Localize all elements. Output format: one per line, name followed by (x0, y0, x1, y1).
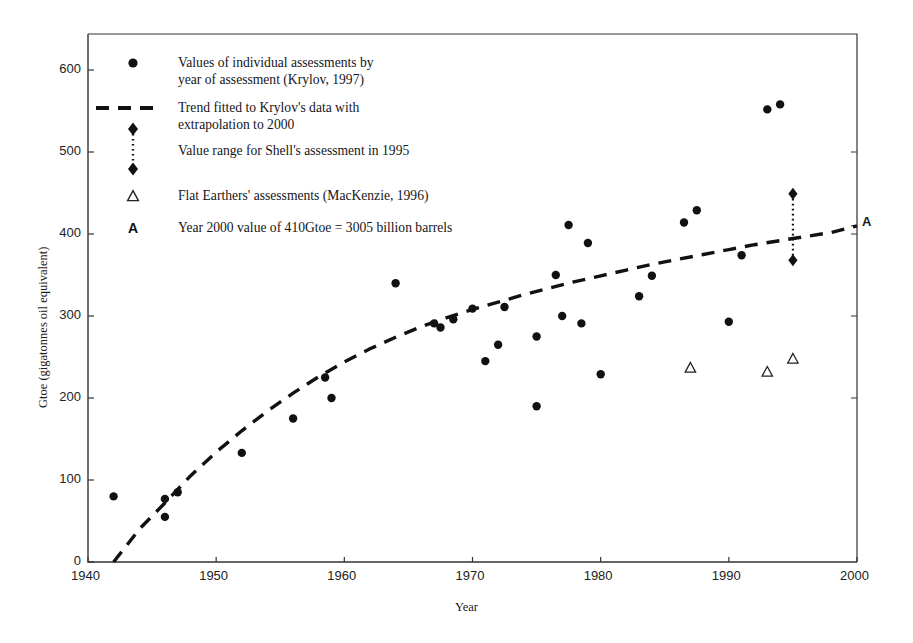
figure-root: A Year Gtoe (gigatonnes oil equivalent) … (0, 0, 913, 643)
data-point (532, 402, 540, 410)
legend-item-label: Year 2000 value of 410Gtoe = 3005 billio… (178, 219, 452, 236)
x-tick-label: 1950 (199, 568, 228, 583)
data-point (693, 206, 701, 214)
data-point (161, 513, 169, 521)
legend-letter-a-icon: A (128, 220, 138, 236)
x-tick-label: 1980 (584, 568, 613, 583)
data-point (737, 251, 745, 259)
data-point-triangle (788, 353, 798, 363)
data-point (481, 357, 489, 365)
data-point-triangle (762, 367, 772, 377)
shell-range-series (788, 188, 797, 266)
data-point (680, 218, 688, 226)
data-point (468, 304, 476, 312)
chart-canvas: A (0, 0, 913, 643)
data-point (635, 292, 643, 300)
x-tick-label: 1940 (71, 568, 100, 583)
data-point (597, 370, 605, 378)
legend-circle-icon (128, 58, 137, 67)
data-point (321, 373, 329, 381)
legend-item-4: Flat Earthers' assessments (MacKenzie, 1… (178, 187, 428, 204)
legend-item-3: Value range for Shell's assessment in 19… (178, 142, 409, 159)
y-tick-label: 300 (48, 307, 81, 322)
data-point (776, 100, 784, 108)
legend-item-label-line2: year of assessment (Krylov, 1997) (178, 71, 374, 88)
data-point (327, 394, 335, 402)
data-point (161, 495, 169, 503)
x-tick-label: 1970 (456, 568, 485, 583)
data-point (289, 414, 297, 422)
data-point (564, 221, 572, 229)
data-point (174, 488, 182, 496)
legend-triangle-icon (128, 191, 139, 201)
x-axis-title: Year (455, 600, 478, 615)
legend-item-label: Flat Earthers' assessments (MacKenzie, 1… (178, 187, 428, 204)
trend-line-series (114, 226, 857, 562)
data-point (648, 272, 656, 280)
data-point (500, 303, 508, 311)
x-tick-label: 1960 (327, 568, 356, 583)
y-axis-title: Gtoe (gigatonnes oil equivalent) (36, 247, 51, 408)
year-2000-value-marker: A (862, 214, 871, 229)
data-point (436, 323, 444, 331)
y-tick-label: 200 (48, 389, 81, 404)
flat-earthers-points-series (685, 353, 798, 376)
legend-item-label: Trend fitted to Krylov's data with (178, 99, 359, 116)
data-point (494, 341, 502, 349)
data-point (725, 318, 733, 326)
data-point (763, 105, 771, 113)
x-tick-label: 2000 (840, 568, 869, 583)
y-tick-label: 0 (69, 553, 81, 568)
legend-diamond-icon (128, 123, 138, 136)
data-point (449, 315, 457, 323)
data-point (391, 279, 399, 287)
data-point (532, 332, 540, 340)
y-tick-label: 500 (48, 143, 81, 158)
legend-diamond-icon (128, 163, 138, 176)
y-tick-label: 600 (48, 61, 81, 76)
data-point-triangle (685, 362, 695, 372)
y-tick-label: 400 (48, 225, 81, 240)
legend-markers: A (96, 58, 160, 236)
legend-item-2: Trend fitted to Krylov's data withextrap… (178, 99, 359, 133)
x-tick-label: 1990 (712, 568, 741, 583)
y-tick-label: 100 (48, 471, 81, 486)
legend-item-label: Value range for Shell's assessment in 19… (178, 142, 409, 159)
data-point (584, 239, 592, 247)
data-point (552, 271, 560, 279)
legend-item-1: Values of individual assessments byyear … (178, 54, 374, 88)
legend-item-label: Values of individual assessments by (178, 54, 374, 71)
data-point (558, 312, 566, 320)
data-point (109, 492, 117, 500)
legend-item-label-line2: extrapolation to 2000 (178, 116, 359, 133)
data-point (238, 449, 246, 457)
legend-item-5: Year 2000 value of 410Gtoe = 3005 billio… (178, 219, 452, 236)
data-point (577, 319, 585, 327)
